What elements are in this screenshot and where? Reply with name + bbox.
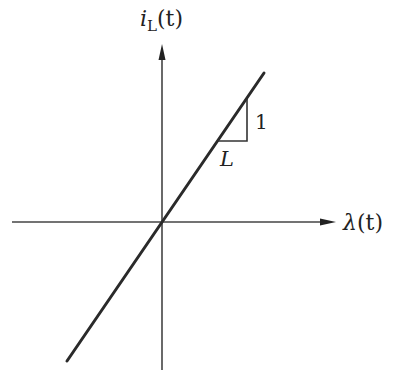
x-axis-label: λ(t) [342, 210, 383, 235]
rise-label: 1 [255, 110, 268, 134]
y-axis-label: iL(t) [140, 6, 183, 35]
diagram-canvas: iL(t) λ(t) 1 L [0, 0, 399, 386]
characteristic-line [67, 73, 264, 361]
inductor-characteristic-plot: iL(t) λ(t) 1 L [0, 0, 399, 386]
x-axis-arrow-icon [320, 219, 336, 226]
y-axis-arrow-icon [159, 44, 166, 60]
run-label: L [219, 147, 234, 171]
